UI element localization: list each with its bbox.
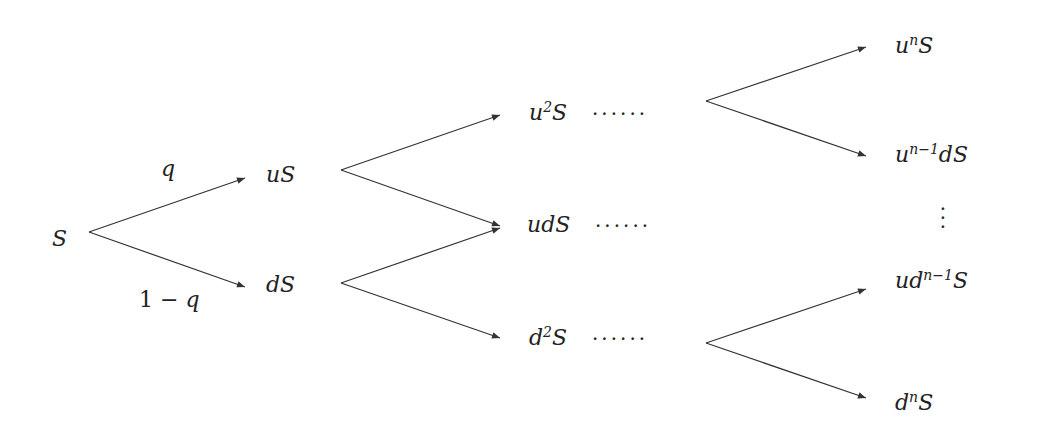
edge-to-un1ds	[706, 101, 866, 156]
leaf-tail: S	[918, 390, 933, 415]
binomial-tree-diagram: S q 1 − q uS dS u2S ······ udS ······ d2…	[0, 0, 1037, 437]
one-label: 1	[139, 287, 153, 312]
node-u2s: u2S	[529, 102, 567, 124]
leaf-base: u	[895, 142, 909, 167]
node-base: u	[529, 100, 543, 125]
continuation-dots-d2s: ······	[592, 329, 648, 349]
node-tail: S	[552, 100, 567, 125]
continuation-dots-uds: ······	[595, 216, 651, 236]
root-label: S	[52, 226, 67, 251]
edge-s-to-ds	[89, 232, 245, 287]
node-ds: dS	[266, 274, 295, 296]
leaf-base: ud	[895, 268, 923, 293]
leaf-exponent: n	[909, 389, 918, 405]
leaf-exponent: n	[909, 32, 918, 48]
edge-to-udn1s	[706, 289, 866, 343]
node-root: S	[52, 228, 67, 250]
edge-to-uns	[706, 47, 866, 101]
edge-ds-to-uds	[341, 228, 500, 283]
leaf-un1ds: un−1dS	[895, 144, 968, 166]
edge-label-up-probability: q	[161, 158, 175, 180]
node-uds: udS	[527, 214, 570, 236]
leaf-base: u	[895, 33, 909, 58]
node-base: u	[266, 162, 280, 187]
edge-us-to-uds	[341, 170, 500, 226]
leaf-base: d	[895, 390, 909, 415]
node-tail: S	[280, 162, 295, 187]
leaf-tail: S	[953, 268, 968, 293]
leaf-exponent: n−1	[909, 141, 939, 157]
leaf-uns: unS	[895, 35, 933, 57]
leaf-exponent: n−1	[923, 267, 953, 283]
vertical-ellipsis: ···	[938, 205, 948, 232]
leaf-tail: dS	[939, 142, 968, 167]
leaf-dns: dnS	[895, 392, 933, 414]
node-tail: S	[280, 272, 295, 297]
node-exponent: 2	[543, 99, 552, 115]
edge-us-to-u2s	[341, 115, 500, 170]
node-base: d	[529, 325, 543, 350]
node-d2s: d2S	[529, 327, 567, 349]
edge-to-dns	[706, 343, 866, 398]
edge-ds-to-d2s	[341, 283, 500, 338]
q-label: q	[185, 287, 199, 312]
node-base: d	[266, 272, 280, 297]
node-base: ud	[527, 212, 555, 237]
node-exponent: 2	[543, 324, 552, 340]
q-label: q	[161, 156, 175, 181]
continuation-dots-u2s: ······	[592, 104, 648, 124]
node-tail: S	[555, 212, 570, 237]
edge-s-to-us	[89, 178, 245, 232]
leaf-udn1s: udn−1S	[895, 270, 968, 292]
leaf-tail: S	[918, 33, 933, 58]
edge-label-down-probability: 1 − q	[139, 289, 200, 311]
tree-edges	[0, 0, 1037, 437]
minus-sign: −	[160, 287, 178, 312]
node-us: uS	[266, 164, 295, 186]
node-tail: S	[552, 325, 567, 350]
